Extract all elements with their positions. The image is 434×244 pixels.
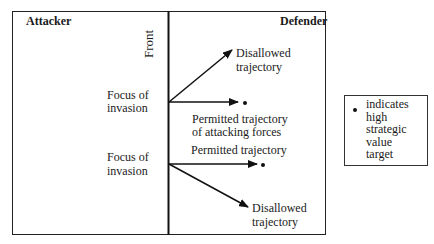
attacker-label: Attacker	[26, 14, 71, 28]
legend-line: indicates	[366, 98, 409, 111]
upper-disallowed-label-line1: Disallowed	[236, 46, 291, 60]
upper-disallowed-arrow	[169, 50, 232, 102]
upper-target-dot	[243, 101, 247, 105]
upper-permitted-label-line1: Permitted trajectory	[192, 112, 288, 126]
upper-permitted-label-line2: of attacking forces	[192, 125, 281, 139]
legend-line: target	[366, 148, 409, 161]
upper-disallowed-label-line2: trajectory	[236, 60, 282, 74]
lower-permitted-label: Permitted trajectory	[191, 143, 287, 157]
legend-box: indicates high strategic value target	[344, 95, 428, 166]
lower-focus-label-line2: invasion	[107, 164, 148, 178]
legend-text: indicates high strategic value target	[366, 98, 409, 161]
lower-disallowed-label-line2: trajectory	[252, 215, 298, 229]
lower-target-dot	[261, 163, 265, 167]
upper-focus-label-line1: Focus of	[107, 88, 149, 102]
upper-focus-label-line2: invasion	[107, 101, 148, 115]
target-dot-icon	[353, 108, 357, 112]
lower-focus-label-line1: Focus of	[107, 150, 149, 164]
defender-label: Defender	[280, 14, 327, 28]
lower-disallowed-arrow	[169, 164, 248, 207]
lower-disallowed-label-line1: Disallowed	[252, 201, 307, 215]
legend-line: strategic	[366, 123, 409, 136]
front-label: Front	[141, 30, 157, 58]
